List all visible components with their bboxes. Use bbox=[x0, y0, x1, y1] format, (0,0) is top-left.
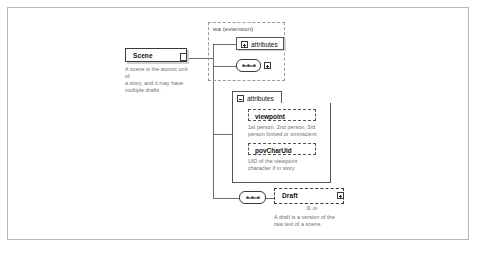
attributes-tab-seam bbox=[233, 103, 281, 105]
draft-expand-plus-icon[interactable] bbox=[337, 192, 344, 199]
xsd-diagram-canvas: Scene A scene is the atomic unit of a st… bbox=[0, 0, 479, 254]
attribute-viewpoint-documentation: 1st person, 2nd person, 3rd person limit… bbox=[248, 124, 326, 138]
sequence-dots-bottom bbox=[246, 196, 259, 199]
draft-cardinality: 0..∞ bbox=[307, 205, 317, 211]
sequence-compositor-icon-top[interactable] bbox=[236, 59, 261, 72]
attribute-item-viewpoint[interactable]: viewpoint bbox=[248, 109, 316, 121]
collapse-minus-icon[interactable] bbox=[237, 95, 244, 102]
expand-plus-icon[interactable] bbox=[241, 41, 248, 48]
attribute-viewpoint-label: viewpoint bbox=[255, 113, 285, 120]
scene-element-label: Scene bbox=[133, 52, 153, 59]
attribute-povcharuid-documentation: UID of the viewpoint character if in sto… bbox=[248, 158, 326, 172]
attributes-expanded-label: attributes bbox=[247, 95, 274, 102]
draft-element-box[interactable]: Draft bbox=[274, 188, 344, 204]
sequence-compositor-icon-bottom[interactable] bbox=[239, 191, 266, 204]
type-stub-icon bbox=[180, 53, 187, 61]
draft-documentation: A draft is a version of the raw text of … bbox=[274, 214, 346, 228]
sequence-top-expand-plus-icon[interactable] bbox=[264, 62, 271, 69]
attributes-collapsed-box[interactable]: attributes bbox=[236, 37, 284, 50]
attribute-povcharuid-label: povCharUid bbox=[255, 147, 292, 154]
extension-model-group-label: wa (extension) bbox=[213, 26, 253, 32]
scene-element-box[interactable]: Scene bbox=[125, 48, 187, 62]
sequence-dots bbox=[242, 64, 255, 67]
scene-documentation: A scene is the atomic unit of a story, a… bbox=[125, 66, 193, 94]
draft-element-label: Draft bbox=[282, 192, 298, 199]
attributes-collapsed-label: attributes bbox=[251, 41, 278, 48]
attribute-item-povcharuid[interactable]: povCharUid bbox=[248, 143, 316, 155]
